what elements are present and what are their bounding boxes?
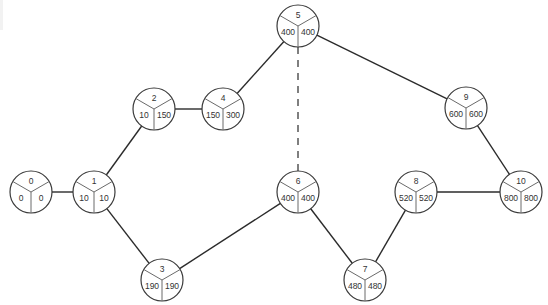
node-10: 10800800 [500,171,542,213]
edge-5-9 [317,35,447,99]
node-earliest-time: 800 [504,193,518,203]
node-2: 210150 [133,88,175,130]
node-earliest-time: 150 [206,110,220,120]
node-latest-time: 300 [226,110,240,120]
node-label: 7 [363,264,368,274]
edge-7-8 [376,210,406,262]
node-0: 000 [10,171,52,213]
node-earliest-time: 10 [79,193,89,203]
node-latest-time: 480 [368,281,382,291]
node-label: 9 [464,92,469,102]
node-label: 5 [296,10,301,20]
node-latest-time: 400 [301,27,315,37]
node-5: 5400400 [277,5,319,47]
node-6: 6400400 [277,171,319,213]
node-earliest-time: 10 [139,110,149,120]
node-7: 7480480 [344,259,386,301]
node-latest-time: 800 [524,193,538,203]
node-latest-time: 600 [469,109,483,119]
edge-4-5 [237,42,284,94]
node-3: 3190190 [141,259,183,301]
edges-layer [52,35,509,268]
node-label: 4 [221,93,226,103]
node-4: 4150300 [202,88,244,130]
node-label: 6 [296,176,301,186]
node-label: 2 [152,93,157,103]
node-latest-time: 0 [39,193,44,203]
node-label: 8 [414,176,419,186]
node-latest-time: 10 [99,193,109,203]
node-latest-time: 190 [165,281,179,291]
node-label: 3 [160,264,165,274]
node-9: 9600600 [445,87,487,129]
edge-6-7 [311,209,353,264]
node-label: 0 [29,176,34,186]
activity-network-diagram: 0001101021015031901904150300540040064004… [0,0,548,305]
edge-3-6 [180,203,281,268]
node-8: 8520520 [395,171,437,213]
edge-9-10 [478,126,510,175]
node-earliest-time: 400 [281,193,295,203]
node-latest-time: 400 [301,193,315,203]
edge-1-2 [106,126,141,175]
node-1: 11010 [73,171,115,213]
node-earliest-time: 480 [348,281,362,291]
node-latest-time: 520 [419,193,433,203]
edge-1-3 [107,209,149,264]
node-earliest-time: 600 [449,109,463,119]
node-label: 10 [516,176,526,186]
node-earliest-time: 190 [145,281,159,291]
node-latest-time: 150 [157,110,171,120]
node-label: 1 [92,176,97,186]
node-earliest-time: 0 [19,193,24,203]
node-earliest-time: 520 [399,193,413,203]
node-earliest-time: 400 [281,27,295,37]
